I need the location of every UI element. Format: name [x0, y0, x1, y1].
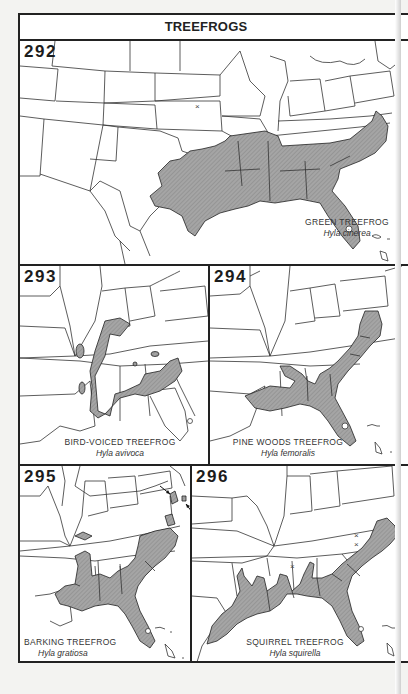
page-header: TREEFROGS — [18, 13, 408, 41]
common-name: BIRD-VOICED TREEFROG — [60, 437, 180, 447]
map-number: 296 — [196, 467, 229, 487]
map-label-296: SQUIRREL TREEFROG Hyla squirella — [230, 637, 360, 658]
svg-text:×: × — [290, 562, 295, 571]
svg-text:×: × — [354, 540, 359, 549]
page-title: TREEFROGS — [165, 19, 248, 34]
common-name: SQUIRREL TREEFROG — [230, 637, 360, 647]
svg-text:×: × — [354, 531, 359, 540]
map-number: 292 — [24, 42, 57, 62]
scientific-name: Hyla squirella — [230, 648, 360, 658]
common-name: GREEN TREEFROG — [292, 217, 402, 227]
range-map-bird-voiced-treefrog — [20, 266, 208, 464]
map-label-294: PINE WOODS TREEFROG Hyla femoralis — [228, 437, 348, 458]
svg-text:×: × — [195, 102, 200, 111]
scientific-name: Hyla gratiosa — [24, 648, 124, 658]
range-map-barking-treefrog — [20, 466, 190, 662]
scientific-name: Hyla cinerea — [292, 228, 402, 238]
divider — [18, 661, 408, 663]
map-panel-293: 293 BIRD-VOICED TREEFROG Hyla avivoca — [20, 266, 208, 464]
map-label-292: GREEN TREEFROG Hyla cinerea — [292, 217, 402, 238]
map-number: 293 — [24, 267, 57, 287]
map-number: 294 — [214, 267, 247, 287]
scientific-name: Hyla avivoca — [60, 448, 180, 458]
map-panel-294: 294 PINE WOODS TREEFROG Hyla femoralis — [210, 266, 408, 464]
range-map-squirrel-treefrog: × × × — [192, 466, 408, 662]
scientific-name: Hyla femoralis — [228, 448, 348, 458]
map-label-295: BARKING TREEFROG Hyla gratiosa — [24, 637, 124, 658]
map-number: 295 — [24, 467, 57, 487]
range-map-pine-woods-treefrog — [210, 266, 408, 464]
map-panel-296: 296 × × × SQUIRREL TREEFROG Hyla squirel… — [192, 466, 408, 662]
map-panel-292: 292 × GREEN TREEFROG Hyl — [20, 41, 408, 264]
common-name: BARKING TREEFROG — [24, 637, 124, 647]
map-panel-295: 295 BARKING TREEFROG Hyla gratiosa — [20, 466, 190, 662]
page-edge-shadow — [395, 0, 401, 694]
map-label-293: BIRD-VOICED TREEFROG Hyla avivoca — [60, 437, 180, 458]
common-name: PINE WOODS TREEFROG — [228, 437, 348, 447]
